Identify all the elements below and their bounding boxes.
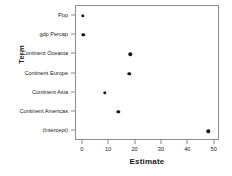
y-axis-tick-label: Continent Europe: [24, 70, 68, 76]
plot-panel: [75, 5, 219, 140]
x-axis-tick-mark: [134, 140, 135, 144]
x-axis-tick-label: 0: [80, 146, 83, 152]
y-axis-tick-label: Continent Asia: [32, 89, 68, 95]
x-axis-tick-mark: [187, 140, 188, 144]
x-axis-tick-mark: [81, 140, 82, 144]
y-axis-tick-label: gdp Percap: [39, 31, 68, 37]
y-axis-tick-label: Continent Americas: [19, 108, 68, 114]
data-point: [81, 14, 84, 17]
y-axis-tick-label: Pop: [58, 12, 68, 18]
data-point: [128, 72, 131, 75]
x-axis-tick-label: 40: [184, 146, 190, 152]
data-point: [117, 110, 120, 113]
y-axis-tick-label: (Intercept): [43, 127, 69, 133]
x-axis-tick-label: 20: [131, 146, 137, 152]
y-axis-tick-label: Continent Oceania: [22, 50, 68, 56]
dot-plot-chart: Term Popgdp PercapContinent OceaniaConti…: [0, 0, 232, 176]
data-point: [103, 91, 106, 94]
x-axis-tick-label: 30: [158, 146, 164, 152]
data-point: [207, 130, 210, 133]
x-axis-title: Estimate: [75, 157, 219, 166]
x-axis-tick-label: 10: [105, 146, 111, 152]
data-point: [81, 33, 84, 36]
x-axis-tick-mark: [160, 140, 161, 144]
data-point: [129, 53, 132, 56]
x-axis-tick-mark: [213, 140, 214, 144]
x-axis-tick-mark: [108, 140, 109, 144]
x-axis-tick-label: 50: [211, 146, 217, 152]
